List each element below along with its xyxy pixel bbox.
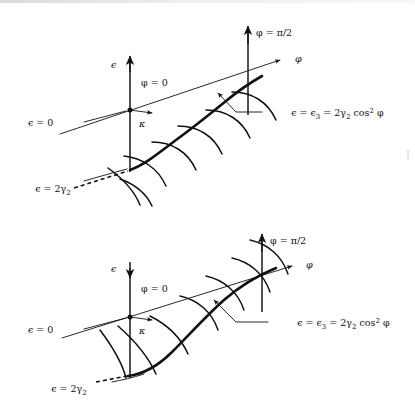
- phi-half-pi-label-lower: φ = π/2: [270, 235, 306, 246]
- kappa-arrow-lower: [130, 317, 152, 320]
- phi-axis-label-upper: φ: [295, 53, 302, 64]
- epsilon3-label-lower: ϵ = ϵ3 = 2γ2 cos2 φ: [276, 317, 405, 331]
- kappa-label-lower: κ: [138, 325, 146, 336]
- epsilon-axis-label-upper: ϵ: [111, 59, 117, 70]
- epsilon3-label-upper: ϵ = ϵ3 = 2γ2 cos2 φ: [270, 107, 399, 121]
- phi-zero-label-lower: φ = 0: [141, 283, 168, 294]
- epsilon-two-gamma-label-lower: ϵ = 2γ2: [30, 383, 102, 397]
- epsilon3-curve-upper: [130, 76, 262, 170]
- lower-diagram: ϵ φ = 0 φ = π/2 φ κ ϵ = 0: [28, 234, 405, 397]
- kappa-label-upper: κ: [138, 118, 146, 129]
- epsilon-axis-label-lower: ϵ: [111, 263, 117, 274]
- figure-canvas: ϵ φ = 0 φ = π/2 φ κ ϵ = 0: [0, 0, 415, 418]
- epsilon-zero-leader-upper: [84, 111, 126, 122]
- epsilon-zero-label-upper: ϵ = 0: [28, 117, 53, 128]
- phi-half-pi-label-upper: φ = π/2: [256, 27, 292, 38]
- kappa-arrow-upper: [130, 110, 152, 113]
- phi-zero-label-upper: φ = 0: [141, 77, 168, 88]
- arc-family-lower: [100, 240, 288, 378]
- epsilon-two-gamma-label-upper: ϵ = 2γ2: [14, 183, 86, 197]
- phi-axis-upper: [60, 60, 280, 134]
- upper-diagram: ϵ φ = 0 φ = π/2 φ κ ϵ = 0: [14, 26, 399, 206]
- phi-axis-label-lower: φ: [306, 259, 313, 270]
- epsilon-zero-label-lower: ϵ = 0: [28, 324, 53, 335]
